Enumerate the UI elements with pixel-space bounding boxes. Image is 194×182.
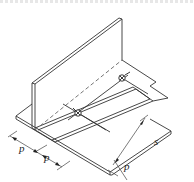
dimension-label-p-middle: p bbox=[44, 152, 50, 163]
weld-strips bbox=[32, 87, 168, 142]
fastener-marker-2 bbox=[119, 72, 130, 81]
dimension-label-p-right: p bbox=[124, 161, 130, 172]
isometric-drawing bbox=[0, 0, 194, 182]
grid-lines bbox=[63, 75, 148, 132]
dimension-label-p-left: p bbox=[19, 143, 25, 154]
dimension-label-s: s bbox=[154, 136, 158, 147]
